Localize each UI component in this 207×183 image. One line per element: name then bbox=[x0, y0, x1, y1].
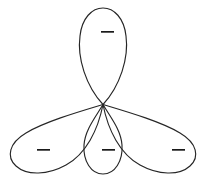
diagram-background bbox=[0, 0, 207, 183]
orbital-diagram-canvas bbox=[0, 0, 207, 183]
orbital-diagram bbox=[0, 0, 207, 183]
top-lobe-minus-sign bbox=[101, 31, 114, 33]
bottom-right-lobe-minus-sign bbox=[172, 149, 185, 151]
bottom-center-lobe-minus-sign bbox=[102, 149, 115, 151]
bottom-left-lobe-minus-sign bbox=[37, 149, 50, 151]
